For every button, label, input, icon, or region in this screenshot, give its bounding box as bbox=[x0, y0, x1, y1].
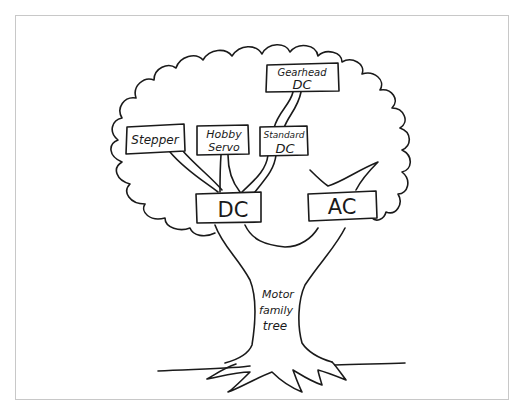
diagram-canvas: Gearhead DC Stepper Hobby Servo Standard… bbox=[0, 0, 521, 412]
ac-label: AC bbox=[328, 195, 357, 219]
node-standard-dc[interactable]: Standard DC bbox=[260, 126, 308, 156]
trunk-fork bbox=[245, 225, 318, 247]
node-gearhead-dc[interactable]: Gearhead DC bbox=[266, 63, 339, 92]
tree-roots bbox=[207, 362, 346, 392]
standard-dc-label-line2: DC bbox=[275, 141, 295, 156]
branch-standard-gearhead bbox=[274, 92, 301, 128]
branch-dc-standard-dc bbox=[242, 155, 276, 192]
hobby-servo-label-line2: Servo bbox=[208, 141, 240, 154]
hobby-servo-label-line1: Hobby bbox=[206, 128, 242, 141]
trunk-label-line1: Motor bbox=[262, 288, 295, 301]
ac-twig bbox=[310, 162, 378, 190]
trunk-label: Motor family tree bbox=[259, 288, 295, 333]
node-hobby-servo[interactable]: Hobby Servo bbox=[197, 125, 249, 155]
gearhead-label-line2: DC bbox=[292, 77, 312, 92]
branch-dc-hobby-servo bbox=[220, 155, 240, 192]
dc-label: DC bbox=[218, 198, 249, 222]
trunk-label-line2: family bbox=[259, 304, 293, 317]
node-dc[interactable]: DC bbox=[196, 192, 261, 223]
branch-dc-stepper bbox=[170, 150, 222, 192]
trunk-label-line3: tree bbox=[263, 319, 287, 333]
trunk-left-edge bbox=[215, 225, 255, 363]
stepper-label: Stepper bbox=[131, 133, 179, 147]
ground-line bbox=[158, 363, 405, 371]
trunk-right-edge bbox=[299, 228, 345, 362]
standard-dc-label-line1: Standard bbox=[263, 130, 304, 140]
node-ac[interactable]: AC bbox=[308, 191, 377, 221]
node-stepper[interactable]: Stepper bbox=[126, 124, 185, 154]
motor-family-tree-drawing: Gearhead DC Stepper Hobby Servo Standard… bbox=[0, 0, 521, 412]
